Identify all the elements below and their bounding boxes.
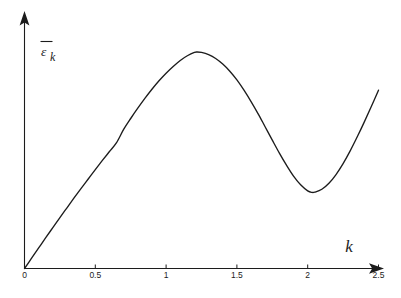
y-axis-title-symbol: ε: [41, 44, 47, 59]
x-axis-title: k: [345, 237, 353, 256]
x-tick-label-1-5: 1.5: [231, 270, 243, 280]
y-axis-title-subscript: k: [50, 50, 56, 64]
x-tick-label-2-5: 2.5: [373, 270, 385, 280]
x-tick-label-1: 1: [164, 270, 169, 280]
line-chart-canvas: 0 0.5 1 1.5 2 2.5 ε k k: [0, 0, 401, 298]
x-tick-label-0: 0: [22, 270, 27, 280]
x-tick-label-0-5: 0.5: [89, 270, 101, 280]
chart-figure: 0 0.5 1 1.5 2 2.5 ε k k: [0, 0, 401, 298]
x-tick-label-2: 2: [305, 270, 310, 280]
chart-background: [0, 0, 401, 298]
